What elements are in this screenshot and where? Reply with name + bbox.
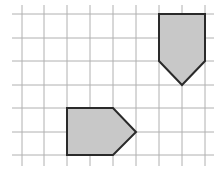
pentagon-pointing-right xyxy=(67,108,136,155)
grid-figure xyxy=(0,0,218,173)
pentagon-pointing-down xyxy=(159,14,205,85)
